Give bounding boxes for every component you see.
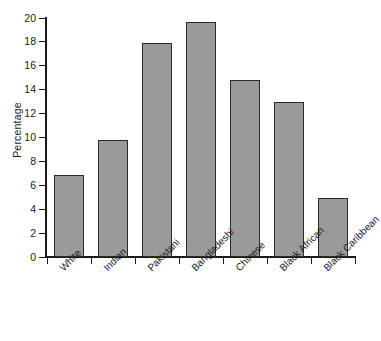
bar: [230, 80, 261, 257]
bar: [54, 175, 85, 257]
y-axis-tick: [39, 257, 46, 258]
bar: [142, 43, 173, 257]
y-axis-tick: [39, 41, 46, 42]
y-axis-tick-label: 6: [2, 180, 36, 191]
y-axis-tick: [39, 137, 46, 138]
y-axis-tick-label: 18: [2, 36, 36, 47]
y-axis-tick-label: 14: [2, 84, 36, 95]
y-axis-tick: [39, 65, 46, 66]
y-axis-tick: [39, 89, 46, 90]
plot-area: [47, 18, 355, 257]
x-axis-tick: [267, 257, 268, 264]
x-axis-tick: [135, 257, 136, 264]
y-axis-tick: [39, 185, 46, 186]
y-axis-tick: [39, 18, 46, 19]
x-axis-tick: [47, 257, 48, 264]
bar: [274, 102, 305, 257]
y-axis-tick-label: 12: [2, 108, 36, 119]
y-axis-tick-label: 10: [2, 132, 36, 143]
y-axis-tick: [39, 113, 46, 114]
x-axis-tick: [311, 257, 312, 264]
x-axis-tick: [355, 257, 356, 264]
y-axis-tick-label: 2: [2, 228, 36, 239]
y-axis-tick-label: 16: [2, 60, 36, 71]
y-axis-tick-label: 20: [2, 13, 36, 24]
x-axis-tick: [91, 257, 92, 264]
x-axis-tick: [223, 257, 224, 264]
y-axis-tick: [39, 233, 46, 234]
y-axis-tick-label: 4: [2, 204, 36, 215]
x-axis-tick: [179, 257, 180, 264]
bar: [98, 140, 129, 257]
y-axis-tick: [39, 209, 46, 210]
y-axis-tick: [39, 161, 46, 162]
y-axis-tick-label: 8: [2, 156, 36, 167]
y-axis-tick-label: 0: [2, 252, 36, 263]
bar: [186, 22, 217, 257]
y-axis-tick-labels: 02468101214161820: [0, 0, 36, 341]
